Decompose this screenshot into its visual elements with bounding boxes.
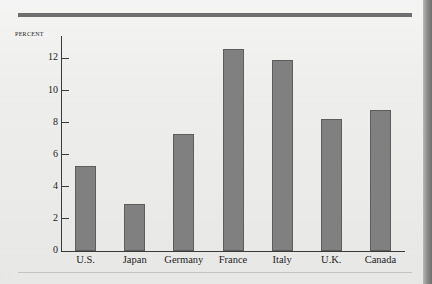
- y-axis-title: Percent: [15, 28, 44, 38]
- bar-chart: Percent 024681012 U.S.JapanGermanyFrance…: [0, 0, 432, 284]
- bar: [370, 110, 391, 251]
- y-axis-tick-mark: [62, 58, 69, 59]
- y-axis-tick-label: 12: [18, 52, 58, 62]
- bar: [173, 134, 194, 251]
- y-axis-tick-label: 6: [18, 149, 58, 159]
- y-axis-tick-label: 10: [18, 85, 58, 95]
- bar: [321, 119, 342, 251]
- y-axis-tick-mark: [62, 154, 69, 155]
- x-axis-category-label: Canada: [340, 254, 420, 266]
- y-axis-tick-label: 4: [18, 181, 58, 191]
- bar: [124, 204, 145, 251]
- bar: [272, 60, 293, 251]
- page-scan-edge: [423, 0, 432, 284]
- y-axis-tick-mark: [62, 186, 69, 187]
- y-axis-tick-mark: [62, 90, 69, 91]
- y-axis-tick-mark: [62, 251, 69, 252]
- page-background: Percent 024681012 U.S.JapanGermanyFrance…: [0, 0, 432, 284]
- y-axis-tick-label: 8: [18, 117, 58, 127]
- y-axis-line: [61, 36, 62, 252]
- bar: [223, 49, 244, 251]
- bar: [75, 166, 96, 251]
- y-axis-tick-label: 2: [18, 213, 58, 223]
- y-axis-tick-mark: [62, 122, 69, 123]
- y-axis-tick-mark: [62, 218, 69, 219]
- x-axis-line: [61, 251, 405, 252]
